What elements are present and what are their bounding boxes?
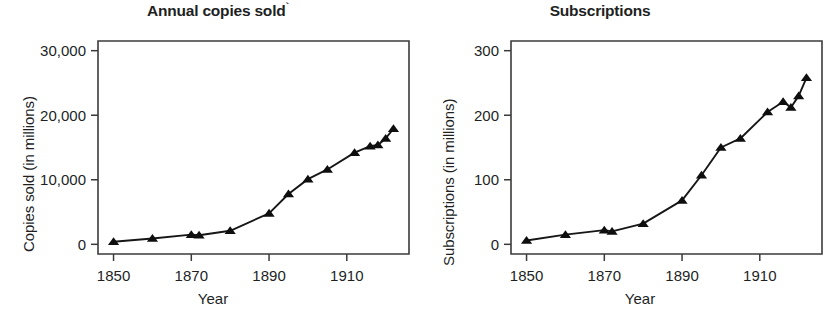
data-point-marker <box>793 91 804 99</box>
data-point-marker <box>778 97 789 105</box>
data-point-marker <box>696 171 707 179</box>
x-tick-label: 1910 <box>330 267 363 284</box>
x-tick-label: 1870 <box>175 267 208 284</box>
data-point-marker <box>349 148 360 156</box>
y-axis-label-right: Subscriptions (in millions) <box>440 99 457 266</box>
y-tick-label: 0 <box>78 236 86 253</box>
data-point-marker <box>302 175 313 183</box>
data-point-marker <box>801 73 812 81</box>
y-tick-label: 100 <box>474 171 499 188</box>
data-point-marker <box>599 226 610 234</box>
two-panel-line-chart-figure: Annual copies sold` 010,00020,00030,0001… <box>0 0 836 316</box>
x-tick-label: 1890 <box>665 267 698 284</box>
y-axis-label-left: Copies sold (in millions) <box>20 96 37 252</box>
y-tick-label: 0 <box>491 236 499 253</box>
y-tick-label: 10,000 <box>40 171 86 188</box>
chart-panel-subscriptions: Subscriptions 01002003001850187018901910… <box>418 0 836 316</box>
data-point-marker <box>225 226 236 234</box>
data-point-marker <box>676 196 687 204</box>
chart-panel-annual-copies-sold: Annual copies sold` 010,00020,00030,0001… <box>0 0 418 316</box>
y-tick-label: 300 <box>474 42 499 59</box>
plot-area-left: 010,00020,00030,0001850187018901910 <box>0 0 418 316</box>
data-point-marker <box>380 134 391 142</box>
x-axis-label-right: Year <box>418 290 836 307</box>
x-tick-label: 1910 <box>743 267 776 284</box>
y-tick-label: 20,000 <box>40 107 86 124</box>
series-line <box>527 78 807 241</box>
data-point-marker <box>388 124 399 132</box>
y-tick-label: 200 <box>474 107 499 124</box>
data-point-marker <box>715 143 726 151</box>
x-tick-label: 1850 <box>97 267 130 284</box>
plot-frame <box>511 41 822 254</box>
x-axis-label-left: Year <box>0 290 418 307</box>
x-tick-label: 1890 <box>252 267 285 284</box>
x-tick-label: 1870 <box>588 267 621 284</box>
plot-area-right: 01002003001850187018901910 <box>418 0 836 316</box>
y-tick-label: 30,000 <box>40 42 86 59</box>
series-line <box>114 129 394 242</box>
x-tick-label: 1850 <box>510 267 543 284</box>
plot-frame <box>98 41 409 254</box>
